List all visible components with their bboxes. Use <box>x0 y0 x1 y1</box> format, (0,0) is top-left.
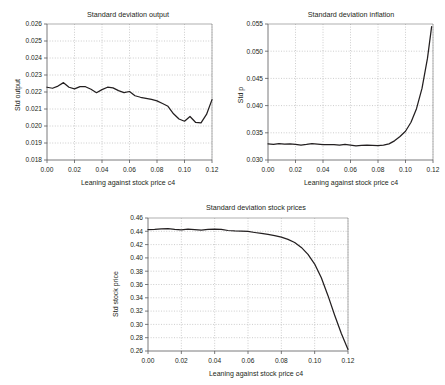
svg-text:0.040: 0.040 <box>246 102 263 109</box>
svg-text:0.023: 0.023 <box>25 71 42 78</box>
chart-panel-standard-deviation-inflation: Standard deviation inflation 0.000.020.0… <box>223 0 445 196</box>
svg-text:0.04: 0.04 <box>317 166 330 173</box>
svg-text:0.030: 0.030 <box>246 156 263 163</box>
svg-text:0.00: 0.00 <box>262 166 275 173</box>
svg-text:0.12: 0.12 <box>206 166 219 173</box>
y-axis-label-inflation: Std p <box>237 87 245 103</box>
svg-text:0.28: 0.28 <box>130 334 143 341</box>
y-tick-labels-stock: 0.260.280.300.320.340.360.380.400.420.44… <box>130 214 143 354</box>
svg-text:0.02: 0.02 <box>289 166 302 173</box>
svg-text:0.021: 0.021 <box>25 105 42 112</box>
chart-panel-standard-deviation-output: Standard deviation output 0.000.020.040.… <box>0 0 222 196</box>
y-axis-label-output: Std output <box>14 79 22 111</box>
svg-text:0.035: 0.035 <box>246 129 263 136</box>
svg-text:0.045: 0.045 <box>246 75 263 82</box>
chart-svg-stock: Standard deviation stock prices 0.000.02… <box>96 196 378 385</box>
ticks-inflation <box>265 24 433 163</box>
svg-text:0.46: 0.46 <box>130 214 143 221</box>
svg-text:0.34: 0.34 <box>130 294 143 301</box>
svg-text:0.06: 0.06 <box>242 357 255 364</box>
svg-text:0.024: 0.024 <box>25 54 42 61</box>
svg-text:0.00: 0.00 <box>142 357 155 364</box>
svg-text:0.08: 0.08 <box>372 166 385 173</box>
svg-text:0.10: 0.10 <box>308 357 321 364</box>
y-axis-label-stock: Std stock price <box>112 271 120 317</box>
svg-text:0.08: 0.08 <box>151 166 164 173</box>
x-axis-label-output: Leaning against stock price c4 <box>81 179 175 187</box>
svg-text:0.38: 0.38 <box>130 268 143 275</box>
svg-text:0.10: 0.10 <box>399 166 412 173</box>
svg-text:0.12: 0.12 <box>342 357 355 364</box>
svg-text:0.30: 0.30 <box>130 321 143 328</box>
svg-text:0.06: 0.06 <box>344 166 357 173</box>
data-series-std-p <box>268 27 432 146</box>
svg-text:0.12: 0.12 <box>427 166 440 173</box>
chart-svg-output: Standard deviation output 0.000.020.040.… <box>0 0 222 196</box>
svg-text:0.018: 0.018 <box>25 156 42 163</box>
svg-text:0.32: 0.32 <box>130 307 143 314</box>
x-tick-labels-output: 0.000.020.040.060.080.100.12 <box>41 166 219 173</box>
svg-text:0.40: 0.40 <box>130 254 143 261</box>
svg-text:0.00: 0.00 <box>41 166 54 173</box>
svg-text:0.050: 0.050 <box>246 48 263 55</box>
svg-text:0.26: 0.26 <box>130 347 143 354</box>
svg-text:0.02: 0.02 <box>68 166 81 173</box>
x-tick-labels-inflation: 0.000.020.040.060.080.100.12 <box>262 166 440 173</box>
svg-text:0.36: 0.36 <box>130 281 143 288</box>
grid-stock <box>148 218 348 351</box>
svg-text:0.44: 0.44 <box>130 228 143 235</box>
svg-text:0.026: 0.026 <box>25 20 42 27</box>
svg-text:0.019: 0.019 <box>25 139 42 146</box>
chart-title-stock: Standard deviation stock prices <box>206 203 306 212</box>
svg-text:0.10: 0.10 <box>178 166 191 173</box>
ticks-output <box>44 24 212 163</box>
x-axis-label-inflation: Leaning against stock price c4 <box>304 179 398 187</box>
grid-inflation <box>268 24 433 160</box>
svg-text:0.025: 0.025 <box>25 37 42 44</box>
svg-text:0.04: 0.04 <box>208 357 221 364</box>
svg-text:0.022: 0.022 <box>25 88 42 95</box>
svg-text:0.08: 0.08 <box>275 357 288 364</box>
svg-text:0.02: 0.02 <box>175 357 188 364</box>
svg-text:0.04: 0.04 <box>96 166 109 173</box>
svg-text:0.020: 0.020 <box>25 122 42 129</box>
x-axis-label-stock: Leaning against stock price c4 <box>209 370 303 378</box>
chart-panel-standard-deviation-stock-prices: Standard deviation stock prices 0.000.02… <box>96 196 378 385</box>
chart-title-output: Standard deviation output <box>87 10 169 19</box>
y-tick-labels-inflation: 0.0300.0350.0400.0450.0500.055 <box>246 20 263 163</box>
chart-title-inflation: Standard deviation inflation <box>308 10 395 19</box>
y-tick-labels-output: 0.0180.0190.0200.0210.0220.0230.0240.025… <box>25 20 42 163</box>
svg-text:0.055: 0.055 <box>246 20 263 27</box>
x-tick-labels-stock: 0.000.020.040.060.080.100.12 <box>142 357 355 364</box>
chart-svg-inflation: Standard deviation inflation 0.000.020.0… <box>223 0 445 196</box>
svg-text:0.06: 0.06 <box>123 166 136 173</box>
ticks-stock <box>145 218 348 354</box>
svg-text:0.42: 0.42 <box>130 241 143 248</box>
